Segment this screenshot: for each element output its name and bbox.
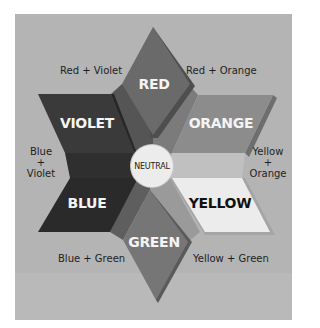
red-orange-mix-label: Red + Orange [186,65,257,76]
red-violet-mix-label: Red + Violet [60,65,122,76]
green-label: GREEN [128,234,180,250]
blue-violet-line3: Violet [23,168,59,179]
blue-violet-line2: + [23,157,59,168]
yellow-orange-line2: + [248,157,288,168]
red-label: RED [138,76,169,92]
yellow-orange-mix-label: Yellow + Orange [248,146,288,179]
yellow-green-mix-label: Yellow + Green [193,253,269,264]
neutral-center-circle: NEUTRAL [131,145,173,187]
orange-label: ORANGE [189,115,254,131]
yellow-orange-line1: Yellow [248,146,288,157]
blue-violet-line1: Blue [23,146,59,157]
neutral-label: NEUTRAL [134,162,170,171]
blue-violet-wedge [65,153,135,178]
yellow-orange-line3: Orange [248,168,288,179]
violet-label: VIOLET [60,115,114,131]
yellow-label: YELLOW [189,195,252,211]
blue-label: BLUE [68,195,107,211]
blue-violet-mix-label: Blue + Violet [23,146,59,179]
yellow-orange-wedge [170,153,245,178]
blue-green-mix-label: Blue + Green [58,253,125,264]
